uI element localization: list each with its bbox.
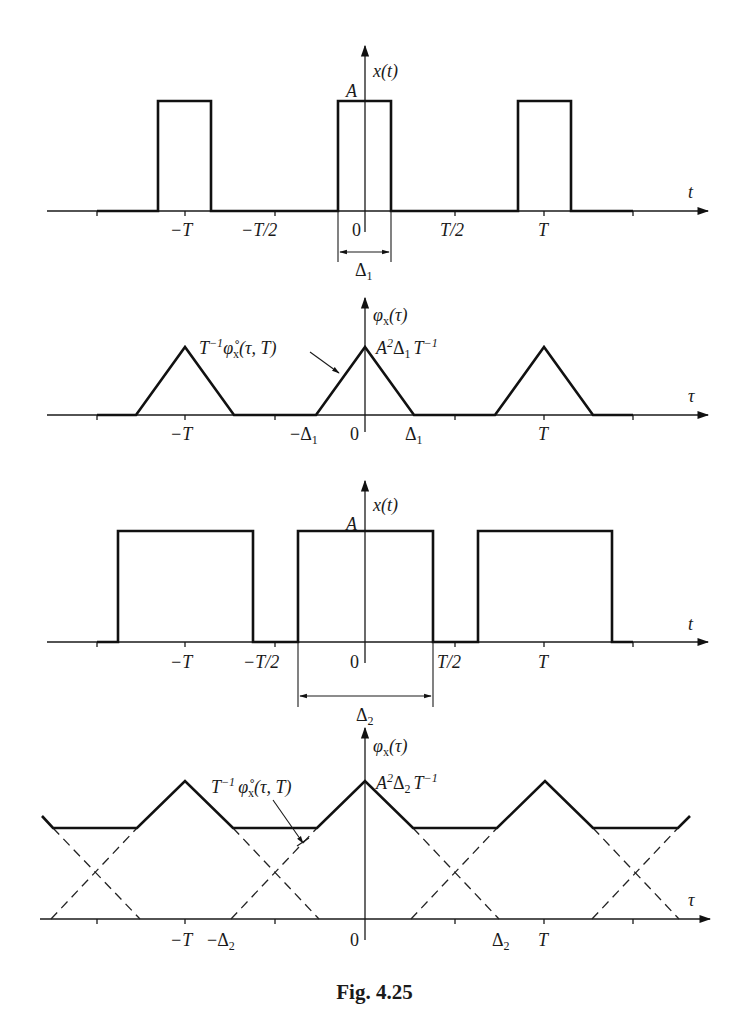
peak-value-label: A2Δ2T−1 (375, 771, 438, 796)
tick-label-T: T (538, 652, 550, 672)
curve-pointer-arrow (310, 352, 339, 373)
tau-axis-label: τ (688, 386, 695, 406)
y-axis-label: φx(τ) (373, 736, 407, 759)
tick-label-T: T (538, 930, 550, 950)
tick-label-delta1: Δ1 (405, 424, 423, 447)
tick-label-T: T (538, 424, 550, 444)
peak-value-label: A2Δ1T−1 (375, 336, 438, 361)
pointer-tick (297, 838, 309, 846)
figure-caption: Fig. 4.25 (0, 980, 749, 1005)
t-axis-label: t (688, 614, 694, 634)
curve-label: T−1φ̊x(τ, T) (199, 336, 277, 361)
tick-label-minus-T: −T (170, 424, 194, 444)
t-axis-label: t (688, 182, 694, 202)
tick-label-delta2: Δ2 (492, 930, 510, 953)
tick-label-T-half: T/2 (437, 652, 461, 672)
y-axis-label: x(t) (372, 61, 398, 82)
tick-label-zero: 0 (350, 652, 359, 672)
width-label-delta1: Δ1 (355, 260, 373, 283)
summed-autocorrelation-signal (42, 781, 690, 828)
amplitude-label: A (345, 81, 358, 101)
y-axis-label: x(t) (372, 495, 398, 516)
panel-x1-pulse-train: x(t) A t −T −T/2 0 T/2 T Δ1 (47, 46, 708, 283)
tick-label-minus-T: −T (170, 220, 194, 240)
panel-phi1-autocorrelation: φx(τ) A2Δ1T−1 T−1φ̊x(τ, T) τ −T −Δ1 0 Δ1… (47, 298, 708, 447)
panel-phi2-autocorrelation: φx(τ) A2Δ2T−1 T−1φ̊x(τ, T) τ −T −Δ2 0 Δ2… (40, 728, 710, 953)
tick-label-zero: 0 (352, 220, 361, 240)
tick-label-minus-delta2: −Δ2 (207, 930, 235, 953)
tick-label-T: T (538, 220, 550, 240)
y-axis-label: φx(τ) (373, 305, 407, 328)
tick-label-T-half: T/2 (440, 220, 464, 240)
tick-label-minus-T: −T (170, 930, 194, 950)
tick-label-zero: 0 (350, 424, 359, 444)
tick-label-minus-delta1: −Δ1 (290, 424, 318, 447)
panel-x2-pulse-train: x(t) A t −T −T/2 0 T/2 T Δ2 (47, 481, 708, 728)
tick-label-minus-T: −T (170, 652, 194, 672)
tick-label-zero: 0 (350, 930, 359, 950)
curve-label: T−1φ̊x(τ, T) (211, 775, 292, 800)
curve-pointer-arrow (273, 800, 303, 843)
tick-label-minus-T-half: −T/2 (243, 652, 279, 672)
tick-label-minus-T-half: −T/2 (241, 220, 277, 240)
figure-4-25: x(t) A t −T −T/2 0 T/2 T Δ1 φx(τ) A2Δ1T−… (0, 0, 749, 1033)
tau-axis-label: τ (688, 890, 695, 910)
amplitude-label: A (345, 514, 358, 534)
width-label-delta2: Δ2 (356, 705, 374, 728)
